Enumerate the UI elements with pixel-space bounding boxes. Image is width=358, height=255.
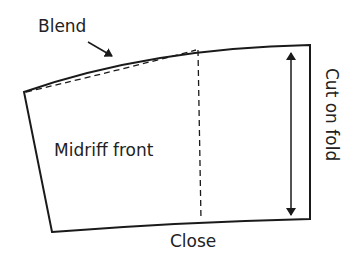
blend-pointer-arrow xyxy=(88,42,112,56)
cut-on-fold-label: Cut on fold xyxy=(323,68,340,161)
blend-label: Blend xyxy=(38,18,86,35)
close-label: Close xyxy=(170,233,216,250)
piece-name-label: Midriff front xyxy=(54,142,153,159)
pattern-drawing xyxy=(0,0,358,255)
pattern-outline xyxy=(24,45,310,232)
close-dashed-line xyxy=(198,50,201,220)
